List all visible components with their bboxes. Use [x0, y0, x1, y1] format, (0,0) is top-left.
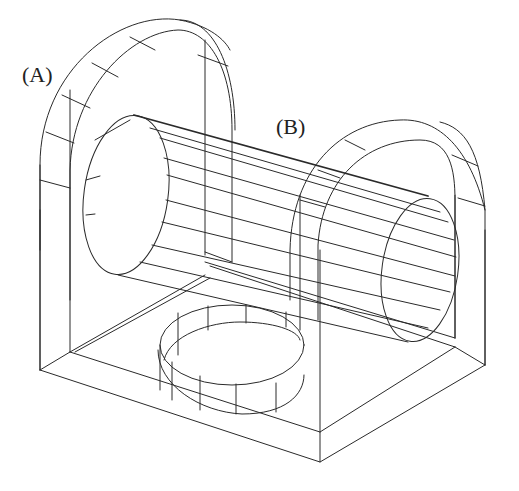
label-b: (B) [276, 114, 305, 140]
base-block [40, 90, 485, 462]
label-a: (A) [22, 62, 53, 88]
wireframe-drawing [0, 0, 519, 491]
diagram-canvas: (A) (B) [0, 0, 519, 491]
circular-recess [158, 305, 304, 414]
